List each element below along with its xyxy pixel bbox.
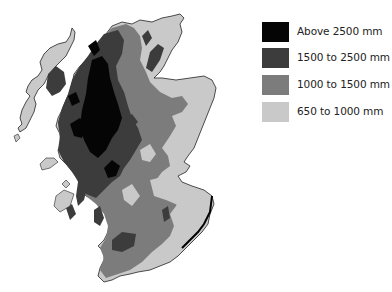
legend-label: Above 2500 mm — [297, 25, 383, 37]
legend-item-1000-1500: 1000 to 1500 mm — [262, 75, 392, 95]
mainland — [46, 14, 216, 282]
legend-item-above-2500: Above 2500 mm — [262, 22, 392, 42]
legend-swatch — [262, 102, 289, 122]
legend-label: 1500 to 2500 mm — [297, 51, 390, 63]
legend-swatch — [262, 22, 289, 42]
legend-label: 650 to 1000 mm — [297, 105, 383, 117]
legend-label: 1000 to 1500 mm — [297, 78, 390, 90]
legend-item-1500-2500: 1500 to 2500 mm — [262, 48, 392, 68]
legend-item-650-1000: 650 to 1000 mm — [262, 102, 392, 122]
legend-swatch — [262, 75, 289, 95]
legend-swatch — [262, 48, 289, 68]
